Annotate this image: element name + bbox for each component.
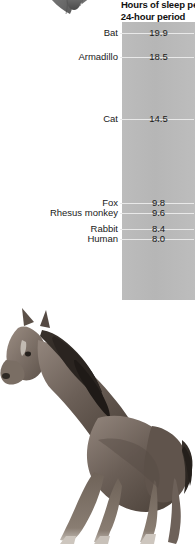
row-value: 19.9	[122, 27, 195, 39]
horse-illustration	[0, 300, 195, 546]
chart-title-line2: 24-hour period	[101, 11, 195, 23]
row-label: Rhesus monkey	[50, 207, 118, 219]
chart-title-line1: Hours of sleep pe	[114, 0, 195, 11]
bat-illustration	[34, 0, 110, 22]
row-label: Cat	[103, 113, 118, 125]
row-label: Human	[87, 233, 118, 245]
row-value: 8.0	[122, 233, 195, 245]
table-row: Human8.0	[0, 233, 195, 245]
table-row: Rhesus monkey9.6	[0, 207, 195, 219]
row-label: Bat	[104, 27, 118, 39]
chart-title: Hours of sleep pe 24-hour period	[110, 0, 195, 22]
sleep-hours-chart: Hours of sleep pe 24-hour period Bat19.9…	[0, 0, 195, 546]
row-value: 14.5	[122, 113, 195, 125]
table-row: Armadillo18.5	[0, 51, 195, 63]
row-value: 9.6	[122, 207, 195, 219]
row-value: 18.5	[122, 51, 195, 63]
table-row: Bat19.9	[0, 27, 195, 39]
bat-photo	[34, 0, 110, 22]
row-label: Armadillo	[78, 51, 118, 63]
table-row: Cat14.5	[0, 113, 195, 125]
horse-photo	[0, 300, 195, 546]
